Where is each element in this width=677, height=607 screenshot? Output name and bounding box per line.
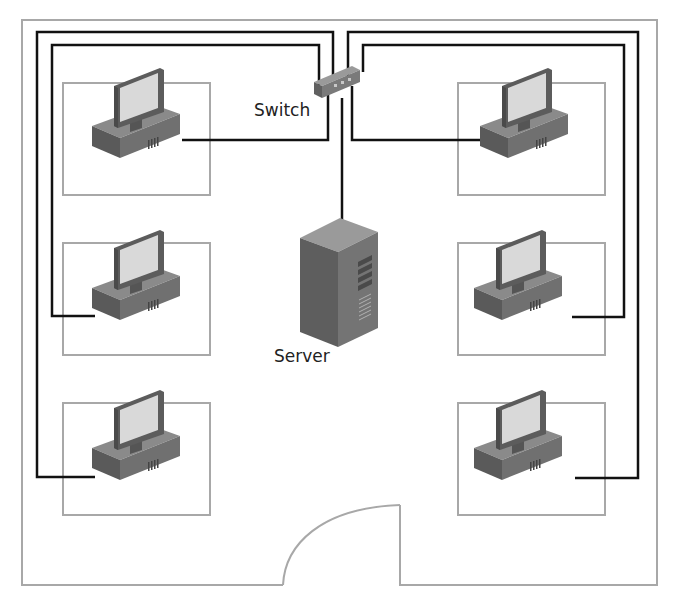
workstation-right-1 [480, 68, 568, 158]
door-arc [283, 505, 400, 585]
server-label: Server [274, 346, 330, 366]
network-diagram [0, 0, 677, 607]
server-icon [300, 218, 378, 347]
workstation-left-1 [92, 68, 180, 158]
switch-label: Switch [254, 100, 310, 120]
